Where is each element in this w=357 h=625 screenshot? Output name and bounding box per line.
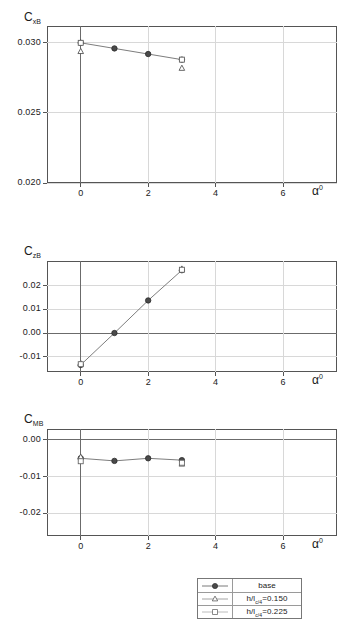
y-tick-mark [43, 183, 47, 184]
zero-axis-vertical [80, 26, 81, 183]
y-axis-title-cmb: CMB [24, 412, 44, 427]
x-tick-label: 4 [201, 377, 231, 387]
x-tick-mark [80, 372, 81, 376]
legend-row: base [198, 579, 301, 592]
zero-axis-vertical [80, 261, 81, 372]
x-tick-label: 2 [133, 188, 163, 198]
legend: base h/lc/4=0.150 h/lc/4=0.225 [197, 578, 302, 619]
y-axis-title-czb: CzB [24, 244, 41, 259]
x-tick-mark [283, 536, 284, 540]
legend-marker-base [198, 579, 233, 592]
x-tick-mark [148, 536, 149, 540]
y-tick-label: -0.01 [1, 471, 41, 481]
x-tick-mark [215, 372, 216, 376]
gridline-vertical [148, 261, 149, 372]
chart-cmb: CMB α0 -0.02-0.010.000246 [0, 410, 357, 570]
legend-row: h/lc/4=0.150 [198, 592, 301, 605]
zero-axis-vertical [80, 429, 81, 536]
x-tick-mark [80, 183, 81, 187]
x-tick-label: 6 [268, 188, 298, 198]
y-axis-title-cxb: CxB [24, 10, 41, 25]
x-axis-title-cxb: α0 [312, 184, 323, 198]
x-tick-label: 4 [201, 541, 231, 551]
x-tick-mark [283, 372, 284, 376]
gridline-horizontal [47, 112, 337, 113]
gridline-horizontal [47, 183, 337, 184]
x-tick-mark [215, 183, 216, 187]
x-tick-mark [148, 372, 149, 376]
gridline-horizontal [47, 356, 337, 357]
y-tick-mark [43, 333, 47, 334]
legend-label-h-over-l-0150: h/lc/4=0.150 [233, 594, 301, 605]
legend-marker-h-over-l-0150 [198, 593, 233, 605]
x-tick-mark [148, 183, 149, 187]
x-tick-label: 0 [66, 541, 96, 551]
zero-axis-horizontal [47, 333, 337, 334]
y-tick-label: -0.01 [1, 351, 41, 361]
legend-marker-h-over-l-0225 [198, 606, 233, 618]
y-tick-label: 0.01 [1, 303, 41, 313]
plot-area-cmb [47, 429, 337, 536]
legend-label-h-over-l-0225: h/lc/4=0.225 [233, 607, 301, 618]
x-axis-title-cmb: α0 [312, 537, 323, 551]
y-tick-mark [43, 439, 47, 440]
y-tick-mark [43, 42, 47, 43]
gridline-vertical [148, 429, 149, 536]
legend-label-base: base [233, 581, 301, 590]
y-tick-mark [43, 309, 47, 310]
gridline-horizontal [47, 513, 337, 514]
x-axis-title-czb: α0 [312, 373, 323, 387]
x-tick-label: 6 [268, 377, 298, 387]
gridline-vertical [148, 26, 149, 183]
gridline-vertical [215, 429, 216, 536]
y-tick-label: -0.02 [1, 507, 41, 517]
y-tick-mark [43, 476, 47, 477]
gridline-vertical [283, 26, 284, 183]
x-tick-label: 4 [201, 188, 231, 198]
gridline-vertical [283, 261, 284, 372]
gridline-horizontal [47, 309, 337, 310]
zero-axis-horizontal [47, 439, 337, 440]
x-tick-label: 2 [133, 541, 163, 551]
legend-row: h/lc/4=0.225 [198, 605, 301, 618]
x-tick-label: 2 [133, 377, 163, 387]
plot-area-cxb [47, 26, 337, 183]
x-tick-label: 6 [268, 541, 298, 551]
chart-cxb: CxB α0 0.0200.0250.0300246 [0, 0, 357, 200]
y-tick-label: 0.00 [1, 327, 41, 337]
x-tick-mark [80, 536, 81, 540]
gridline-horizontal [47, 476, 337, 477]
y-tick-label: 0.025 [1, 107, 41, 117]
y-tick-mark [43, 285, 47, 286]
gridline-horizontal [47, 285, 337, 286]
y-tick-mark [43, 356, 47, 357]
y-tick-label: 0.020 [1, 177, 41, 187]
y-tick-mark [43, 513, 47, 514]
x-tick-label: 0 [66, 377, 96, 387]
y-tick-label: 0.00 [1, 434, 41, 444]
y-tick-label: 0.030 [1, 37, 41, 47]
y-tick-label: 0.02 [1, 280, 41, 290]
x-tick-mark [283, 183, 284, 187]
chart-czb: CzB α0 -0.010.000.010.020246 [0, 240, 357, 405]
gridline-vertical [215, 26, 216, 183]
x-tick-mark [215, 536, 216, 540]
y-tick-mark [43, 112, 47, 113]
gridline-vertical [283, 429, 284, 536]
gridline-horizontal [47, 42, 337, 43]
x-tick-label: 0 [66, 188, 96, 198]
gridline-vertical [215, 261, 216, 372]
